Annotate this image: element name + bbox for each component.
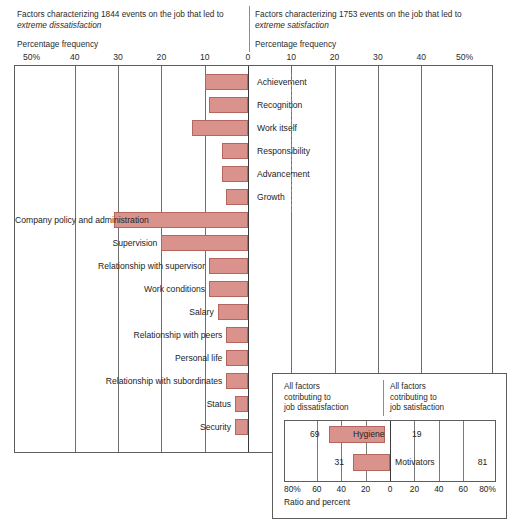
inset-tick-60: 60 bbox=[312, 484, 321, 494]
inset-tick-labels: 80%604020020406080% bbox=[284, 484, 496, 496]
inset-gridline-40 bbox=[439, 421, 440, 481]
plot-area: AchievementRecognitionWork itselfRespons… bbox=[14, 65, 493, 453]
bar-work-itself bbox=[192, 120, 248, 136]
bar-security bbox=[235, 419, 248, 435]
category-label-responsibility: Responsibility bbox=[257, 143, 310, 159]
inset-tick-20: 20 bbox=[361, 484, 370, 494]
category-label-company-policy-and-administration: Company policy and administration bbox=[15, 212, 110, 228]
x-tick-40: 40 bbox=[416, 52, 426, 62]
inset-axis-title: Ratio and percent bbox=[284, 497, 350, 507]
bar-advancement bbox=[222, 166, 248, 182]
zero-axis-line bbox=[248, 66, 249, 452]
header-left-line1: Factors characterizing 1844 events on th… bbox=[17, 9, 224, 19]
category-label-salary: Salary bbox=[15, 304, 214, 320]
inset-caption-dissatisfaction: All factorscotributing tojob dissatisfac… bbox=[284, 382, 376, 414]
x-tick-10: 10 bbox=[287, 52, 297, 62]
category-label-supervision: Supervision bbox=[15, 235, 157, 251]
inset-value-left-hygiene: 69 bbox=[310, 426, 320, 443]
category-label-work-conditions: Work conditions bbox=[15, 281, 205, 297]
x-tick-30: 30 bbox=[113, 52, 123, 62]
bar-status bbox=[235, 396, 248, 412]
inset-tick-0: 0 bbox=[388, 484, 393, 494]
inset-series-label-motivators: Motivators bbox=[395, 454, 435, 471]
inset-gridline-60 bbox=[463, 421, 464, 481]
header-left-frequency-label: Percentage frequency bbox=[17, 39, 245, 50]
dashed-guide-10 bbox=[291, 74, 292, 212]
category-label-relationship-with-subordinates: Relationship with subordinates bbox=[15, 373, 222, 389]
x-tick-20: 20 bbox=[157, 52, 167, 62]
x-tick-50pct: 50% bbox=[23, 52, 40, 62]
category-label-achievement: Achievement bbox=[257, 74, 307, 90]
category-label-recognition: Recognition bbox=[257, 97, 302, 113]
header-right-emphasis: extreme satisfaction bbox=[255, 20, 329, 30]
bar-growth bbox=[226, 189, 248, 205]
header-right-line1: Factors characterizing 1753 events on th… bbox=[255, 9, 462, 19]
category-label-personal-life: Personal life bbox=[15, 350, 222, 366]
inset-zero-line bbox=[390, 421, 391, 481]
header-satisfaction: Factors characterizing 1753 events on th… bbox=[255, 9, 490, 50]
category-label-advancement: Advancement bbox=[257, 166, 310, 182]
inset-tick-80pct: 80% bbox=[479, 484, 496, 494]
inset-caption-satisfaction: All factorscotributing tojob satisfactio… bbox=[390, 382, 490, 414]
category-label-relationship-with-supervisor: Relationship with supervisor bbox=[15, 258, 205, 274]
bar-relationship-with-peers bbox=[226, 327, 248, 343]
bar-relationship-with-supervisor bbox=[209, 258, 248, 274]
category-label-security: Security bbox=[15, 419, 231, 435]
summary-inset: All factorscotributing tojob dissatisfac… bbox=[272, 373, 507, 519]
x-tick-30: 30 bbox=[373, 52, 383, 62]
inset-tick-80pct: 80% bbox=[284, 484, 301, 494]
inset-series-label-hygiene: Hygiene bbox=[353, 426, 385, 443]
header-dissatisfaction: Factors characterizing 1844 events on th… bbox=[17, 9, 245, 50]
inset-value-right-hygiene: 19 bbox=[412, 426, 422, 443]
category-label-growth: Growth bbox=[257, 189, 285, 205]
inset-tick-40: 40 bbox=[337, 484, 346, 494]
category-label-relationship-with-peers: Relationship with peers bbox=[15, 327, 222, 343]
inset-value-left-motivators: 31 bbox=[334, 454, 344, 471]
bar-relationship-with-subordinates bbox=[226, 373, 248, 389]
x-tick-40: 40 bbox=[70, 52, 80, 62]
bar-personal-life bbox=[226, 350, 248, 366]
header-left-emphasis: extreme dissatisfaction bbox=[17, 20, 101, 30]
bar-responsibility bbox=[222, 143, 248, 159]
x-tick-50pct: 50% bbox=[456, 52, 473, 62]
bar-recognition bbox=[209, 97, 248, 113]
bar-work-conditions bbox=[209, 281, 248, 297]
inset-value-right-motivators: 81 bbox=[478, 454, 488, 471]
bar-supervision bbox=[161, 235, 248, 251]
header-divider bbox=[249, 6, 250, 52]
inset-tick-60: 60 bbox=[459, 484, 468, 494]
category-label-status: Status bbox=[15, 396, 231, 412]
bar-salary bbox=[218, 304, 248, 320]
header-right-frequency-label: Percentage frequency bbox=[255, 39, 490, 50]
x-tick-20: 20 bbox=[330, 52, 340, 62]
inset-bar-motivators bbox=[353, 454, 390, 471]
inset-tick-20: 20 bbox=[410, 484, 419, 494]
x-tick-10: 10 bbox=[200, 52, 210, 62]
inset-caption-divider bbox=[383, 380, 384, 416]
bar-achievement bbox=[205, 74, 248, 90]
x-axis-tick-labels: 50%4030201001020304050% bbox=[0, 52, 507, 65]
x-tick-0: 0 bbox=[246, 52, 251, 62]
inset-tick-40: 40 bbox=[434, 484, 443, 494]
inset-plot-area: 69Hygiene1931Motivators81 bbox=[284, 420, 496, 482]
